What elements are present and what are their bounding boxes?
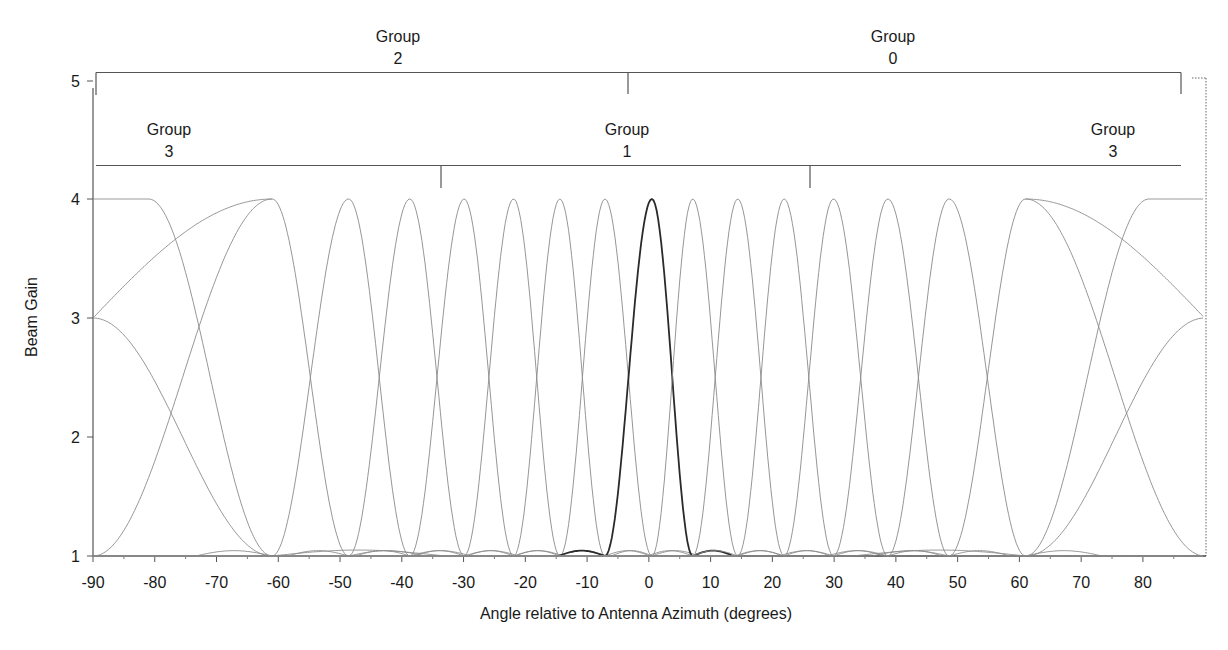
beam-curve — [93, 199, 1203, 556]
edge-beam-curve — [1026, 318, 1203, 556]
x-tick-label: 60 — [1011, 574, 1029, 591]
beam-curve — [93, 199, 1203, 556]
x-tick-label: 0 — [644, 574, 653, 591]
beam-curve — [93, 199, 1203, 556]
y-tick-label: 4 — [71, 191, 80, 208]
y-axis-ticks: 12345 — [71, 73, 93, 565]
beam-curve — [93, 199, 1203, 556]
beam-curve — [93, 199, 1203, 556]
y-tick-label: 1 — [71, 548, 80, 565]
beam-curve — [93, 199, 1203, 556]
x-tick-label: 30 — [825, 574, 843, 591]
x-tick-label: 20 — [763, 574, 781, 591]
edge-beam-curve — [1026, 199, 1203, 316]
axes: 12345 -90-80-70-60-50-40-30-20-100102030… — [71, 73, 1206, 591]
beam-gain-chart: Group 2 Group 0 Group 3 Group 1 Group 3 … — [0, 0, 1228, 650]
beam-curve — [93, 199, 1203, 556]
beam-curve — [93, 199, 1203, 556]
group-3-right-label-line1: Group — [1091, 121, 1136, 138]
y-tick-label: 2 — [71, 429, 80, 446]
beam-curve — [93, 199, 1203, 556]
x-tick-label: 80 — [1134, 574, 1152, 591]
group-labels: Group 2 Group 0 Group 3 Group 1 Group 3 — [147, 28, 1136, 160]
x-tick-label: -80 — [143, 574, 166, 591]
beam-curve-highlighted — [93, 199, 1203, 556]
beam-curve — [93, 199, 1203, 556]
beam-curves — [93, 199, 1203, 556]
beam-curve — [93, 199, 1203, 556]
beam-curve — [93, 199, 1203, 556]
group-2-label-line1: Group — [376, 28, 421, 45]
edge-beam-curve — [93, 318, 272, 556]
y-tick-label: 5 — [71, 73, 80, 90]
group-0-label-line1: Group — [871, 28, 916, 45]
x-tick-label: -50 — [328, 574, 351, 591]
x-tick-label: 70 — [1072, 574, 1090, 591]
beam-curve — [93, 199, 1203, 556]
x-axis-ticks: -90-80-70-60-50-40-30-20-100102030405060… — [81, 556, 1173, 591]
x-tick-label: 50 — [949, 574, 967, 591]
group-2-label-line2: 2 — [394, 50, 403, 67]
group-1-label-line2: 1 — [623, 143, 632, 160]
x-tick-label: -10 — [576, 574, 599, 591]
beam-curve — [93, 199, 1203, 556]
edge-beam-curve — [93, 199, 272, 318]
x-tick-label: -90 — [81, 574, 104, 591]
group-1-label-line1: Group — [605, 121, 650, 138]
x-axis-title: Angle relative to Antenna Azimuth (degre… — [480, 605, 792, 622]
beam-curve — [93, 199, 1203, 556]
x-tick-label: 10 — [702, 574, 720, 591]
right-dotted-border — [1192, 78, 1206, 556]
x-tick-label: -70 — [205, 574, 228, 591]
y-tick-label: 3 — [71, 310, 80, 327]
group-0-label-line2: 0 — [889, 50, 898, 67]
x-tick-label: 40 — [887, 574, 905, 591]
group-3-left-label-line1: Group — [147, 121, 192, 138]
y-axis-title: Beam Gain — [23, 277, 40, 357]
group-3-right-label-line2: 3 — [1109, 143, 1118, 160]
beam-curve — [93, 199, 1203, 556]
group-3-left-label-line2: 3 — [165, 143, 174, 160]
x-tick-label: -40 — [390, 574, 413, 591]
x-tick-label: -30 — [452, 574, 475, 591]
x-tick-label: -60 — [267, 574, 290, 591]
x-tick-label: -20 — [514, 574, 537, 591]
